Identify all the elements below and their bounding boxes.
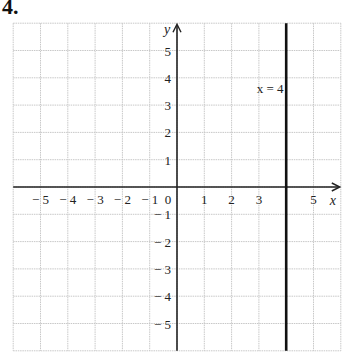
y-tick-label: 3 [165,98,172,113]
y-tick-label: − 3 [154,262,171,277]
y-tick-label: − 4 [154,289,172,304]
y-tick-label: 1 [165,153,172,168]
x-tick-label: 2 [228,192,235,207]
tick-labels: − 5− 4− 3− 2− 10123554321− 1− 2− 3− 4− 5… [32,22,337,331]
x-tick-label: − 5 [32,192,49,207]
axes [13,24,340,351]
y-tick-label: − 2 [154,235,171,250]
y-tick-label: 2 [165,125,172,140]
y-tick-label: − 5 [154,317,171,332]
x-tick-label: 3 [256,192,263,207]
x-tick-label: 0 [165,192,172,207]
x-axis-label: x [329,193,337,208]
y-tick-label: 4 [165,71,172,86]
line-annotation-label: x = 4 [257,81,284,96]
x-tick-label: − 2 [114,192,131,207]
coordinate-plane-chart: − 5− 4− 3− 2− 10123554321− 1− 2− 3− 4− 5… [0,0,349,363]
x-tick-label: 1 [201,192,208,207]
y-tick-label: 5 [165,44,172,59]
y-tick-label: − 1 [154,207,171,222]
x-tick-label: − 3 [87,192,104,207]
y-axis-label: y [162,22,171,37]
x-tick-label: − 4 [59,192,77,207]
x-tick-label: − 1 [141,192,158,207]
x-tick-label: 5 [310,192,317,207]
